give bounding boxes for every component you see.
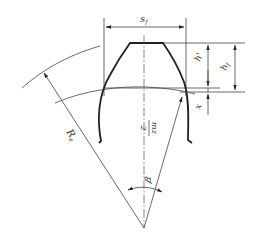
pitch-radius-line (144, 97, 182, 228)
outer-arc (22, 46, 100, 88)
pitch-arc (55, 87, 195, 103)
radius-line (44, 73, 144, 228)
tooth-width-label: sf (140, 13, 149, 26)
tooth-height-label: hf (218, 59, 233, 72)
gear-tooth-diagram: sf Re mz 2 β h' hf x (0, 0, 257, 244)
tooth-width-extension-lines (104, 18, 186, 96)
shift-label: x (192, 102, 203, 110)
pitch-radius-label: mz 2 (139, 120, 159, 136)
svg-text:mz: mz (150, 122, 159, 135)
radius-label: Re (63, 126, 80, 143)
svg-text:2: 2 (139, 124, 148, 130)
angle-arc (128, 187, 162, 192)
addendum-label: h' (192, 51, 204, 62)
